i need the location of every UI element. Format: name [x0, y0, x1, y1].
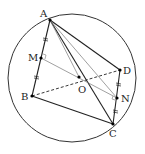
label-N: N [121, 93, 130, 104]
segment-AC [50, 20, 113, 124]
segment-BD-dashed [32, 70, 120, 96]
label-A: A [39, 8, 48, 19]
point-D [118, 68, 121, 71]
point-N [115, 96, 118, 99]
label-M: M [28, 52, 38, 63]
point-M [39, 56, 42, 59]
point-C [111, 122, 114, 125]
segment-BC [32, 96, 113, 124]
right-angle-marker-M [43, 54, 46, 59]
circumcircle [8, 14, 136, 142]
label-O: O [78, 84, 86, 95]
label-D: D [123, 65, 131, 76]
point-O [77, 75, 80, 78]
segment-AD [50, 20, 120, 70]
label-B: B [21, 91, 28, 102]
point-B [30, 94, 33, 97]
geometry-diagram: A M B O D N C [0, 0, 145, 154]
point-A [48, 18, 51, 21]
label-C: C [109, 128, 117, 139]
